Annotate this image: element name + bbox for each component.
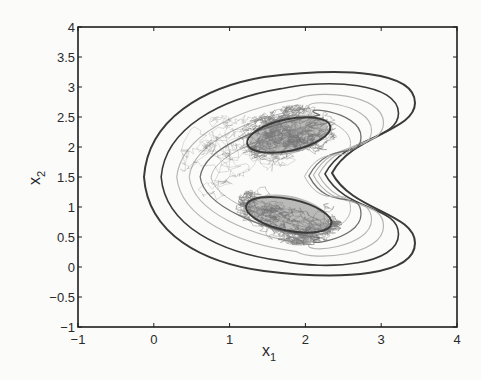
y-tick-label: −1 xyxy=(60,320,75,335)
y-tick-label: −0.5 xyxy=(49,290,75,305)
x-tick-label: 2 xyxy=(302,332,309,347)
plot-frame xyxy=(78,27,457,327)
y-axis-ticks: −1−0.500.511.522.533.54 xyxy=(49,20,457,335)
y-tick-label: 2 xyxy=(68,140,75,155)
y-tick-label: 4 xyxy=(68,20,75,35)
y-tick-label: 3.5 xyxy=(57,50,75,65)
y-tick-label: 0 xyxy=(68,260,75,275)
y-tick-label: 2.5 xyxy=(57,110,75,125)
y-tick-label: 1.5 xyxy=(57,170,75,185)
y-tick-label: 1 xyxy=(68,200,75,215)
x-tick-label: 3 xyxy=(378,332,385,347)
y-tick-label: 3 xyxy=(68,80,75,95)
x-tick-label: 4 xyxy=(453,332,460,347)
x-axis-label: x1 xyxy=(262,342,276,363)
x-tick-label: 0 xyxy=(150,332,157,347)
y-tick-label: 0.5 xyxy=(57,230,75,245)
x-tick-label: 1 xyxy=(226,332,233,347)
contour-lines xyxy=(144,72,415,275)
y-axis-label: x2 xyxy=(26,171,47,185)
contour-chart: −101234 −1−0.500.511.522.533.54 x1 x2 xyxy=(0,0,481,380)
